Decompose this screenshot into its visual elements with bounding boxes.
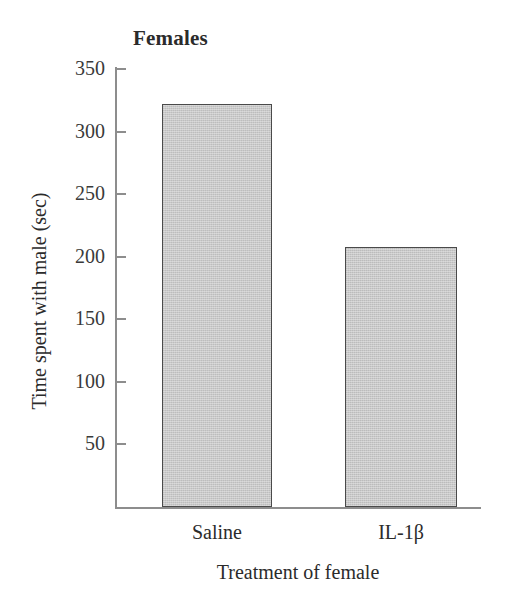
x-axis-category-label: Saline (112, 521, 322, 543)
y-axis-tick-mark (117, 68, 126, 70)
y-axis-tick-label: 50 (35, 433, 105, 453)
bar (345, 247, 457, 507)
y-axis-tick-label: 100 (35, 371, 105, 391)
y-axis-tick-mark (117, 256, 126, 258)
x-axis-title: Treatment of female (115, 561, 481, 584)
y-axis-tick-mark (117, 318, 126, 320)
y-axis-tick-mark (117, 131, 126, 133)
y-axis-tick-mark (117, 193, 126, 195)
y-axis-tick-label: 200 (35, 246, 105, 266)
y-axis-tick-label: 300 (35, 121, 105, 141)
x-axis-line (115, 507, 481, 509)
y-axis-tick-label: 350 (35, 58, 105, 78)
y-axis-tick-label: 150 (35, 308, 105, 328)
y-axis-tick-mark (117, 443, 126, 445)
y-axis-tick-mark (117, 381, 126, 383)
chart-title: Females (133, 26, 293, 51)
y-axis-tick-label: 250 (35, 183, 105, 203)
bar (162, 104, 272, 507)
bar-chart-figure: Females Time spent with male (sec) 50100… (0, 0, 532, 600)
x-axis-category-label: IL-1β (295, 521, 507, 543)
